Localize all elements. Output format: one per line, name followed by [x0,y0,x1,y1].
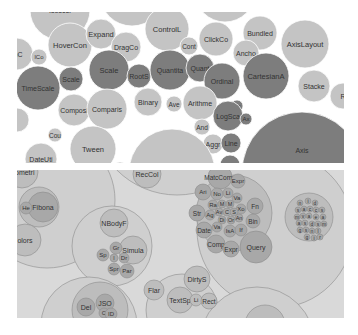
bubble-circle[interactable] [17,108,29,132]
bubble[interactable]: Stacke [298,70,330,102]
pack-node[interactable]: No [211,188,223,200]
pack-node[interactable]: v [300,213,306,219]
pack-node[interactable]: g [297,227,303,233]
pack-node[interactable]: Date [196,222,212,238]
pack-node[interactable]: Rect [201,293,217,309]
pack-node[interactable]: d [309,221,315,227]
pack-node[interactable]: Bin [246,214,260,228]
pack-label: Expr [224,246,238,254]
pack-node[interactable]: NBodyF [100,209,128,237]
bubble[interactable]: HoverCon [48,23,92,67]
pack-node[interactable]: r [317,234,323,240]
bubble[interactable]: LogSca [213,101,243,131]
pack-node[interactable]: Expr [223,241,239,257]
bubble[interactable]: lCo [31,49,47,65]
pack-node[interactable]: DirtyS [184,266,210,292]
pack-node[interactable]: Par [120,264,134,278]
pack-node[interactable]: I [110,254,118,262]
pack-node[interactable]: Li [223,188,233,198]
pack-node[interactable]: Dr [119,253,129,263]
bubble[interactable]: CartesianA [243,53,289,99]
pack-node[interactable]: n [309,228,315,234]
bubble[interactable]: Ave [166,96,182,112]
pack-node[interactable]: s [303,227,309,233]
bubble[interactable]: Line [221,133,241,153]
pack-node[interactable]: Fibona [28,192,58,222]
pack-node[interactable]: Ari [195,184,211,200]
pack-node[interactable]: Query [240,231,272,263]
bubble[interactable]: R [330,83,344,109]
pack-node[interactable]: Gr [110,242,122,254]
pack-node[interactable]: M [218,200,226,208]
bubble[interactable]: Cou [48,128,62,142]
pack-node[interactable]: a [320,214,326,220]
pack-node[interactable]: g [304,234,310,240]
pack-node[interactable]: s [295,207,301,213]
bubble[interactable]: Scale [89,50,129,90]
pack-node[interactable]: a [306,213,312,219]
pack-node[interactable]: s [315,221,321,227]
pack-node[interactable]: TextSp [167,287,193,313]
bubble[interactable]: Quantita [150,50,190,90]
pack-node[interactable]: s [302,220,308,226]
circle-packing-chart: IsometriRecCololorsNBodyFSimulaFlarTextS… [17,170,344,318]
bubble[interactable]: And [194,119,210,135]
pack-node[interactable]: Sp [97,249,109,261]
circle-packing-panel: IsometriRecCololorsNBodyFSimulaFlarTextS… [17,170,344,318]
pack-node[interactable]: If [235,224,247,236]
bubble[interactable]: Composi [58,94,90,126]
bubble[interactable] [195,12,255,22]
bubble[interactable]: Axis [242,112,344,163]
bubble-circle[interactable] [242,112,344,163]
pack-node[interactable]: Ag [205,210,215,220]
pack-node[interactable]: c [307,206,313,212]
pack-node[interactable]: An [235,214,243,222]
bubble-circle[interactable] [113,162,127,163]
pack-node[interactable]: a [296,220,302,226]
pack-node[interactable]: Li [190,294,202,306]
pack-node[interactable]: Va [212,222,222,232]
pack-node[interactable]: Del [77,298,95,316]
bubble[interactable] [220,155,240,163]
bubble-label: DateUti [29,156,53,163]
pack-node[interactable]: Fn [247,198,263,214]
bubble[interactable]: Binary [134,88,162,116]
bubble[interactable]: Cont [180,37,198,55]
bubble[interactable]: TimeScale [17,66,60,110]
bubble[interactable]: ClickCo [199,22,233,56]
pack-node[interactable]: e [313,214,319,220]
bubble-circle[interactable] [195,12,255,22]
bubble[interactable]: RootS [127,64,151,88]
pack-node[interactable]: M [226,200,234,208]
pack-node[interactable]: Va [232,193,242,203]
pack-node[interactable]: m [321,221,327,227]
bubble[interactable]: DateUti [25,143,57,163]
pack-node[interactable]: Av [215,208,223,216]
bubble[interactable]: Arithme [183,86,217,120]
bubble[interactable] [17,108,29,132]
bubble[interactable]: Ax [240,113,252,125]
pack-node[interactable]: He [20,202,32,214]
bubble-label: Cont [182,43,196,50]
pack-node[interactable]: Str [189,205,205,221]
pack-node[interactable]: ID [105,308,117,318]
pack-node[interactable]: Comp [207,235,225,253]
pack-node[interactable]: i [305,198,311,204]
pack-node[interactable]: s [319,207,325,213]
bubble[interactable]: AxisLayout [281,20,329,68]
pack-node[interactable]: Or [227,216,235,224]
pack-node[interactable]: IsA [224,225,236,237]
bubble[interactable]: Scale [59,67,83,91]
bubble[interactable]: Tween [70,126,116,163]
bubble[interactable]: Tran [113,162,127,163]
bubble-circle[interactable] [220,155,240,163]
pack-node[interactable]: c [313,207,319,213]
pack-node[interactable]: Expr [231,174,245,188]
pack-node[interactable]: i [311,235,317,241]
bubble[interactable]: mC [17,38,33,70]
pack-node[interactable]: Flar [144,280,164,300]
pack-node[interactable]: a [301,206,307,212]
pack-node[interactable]: Spr [108,263,120,275]
bubble[interactable]: Comparis [87,89,127,129]
pack-node[interactable]: d [312,200,318,206]
